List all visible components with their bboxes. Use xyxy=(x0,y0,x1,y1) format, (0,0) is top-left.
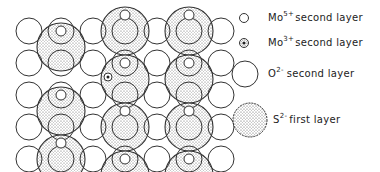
o2-ion xyxy=(80,82,106,108)
o2-ion xyxy=(208,82,234,108)
o2-ion xyxy=(16,114,42,140)
legend-item-s2: S2-first layer xyxy=(233,103,341,137)
mo5-ion xyxy=(184,106,194,116)
o2-ion xyxy=(144,82,170,108)
legend-label-mo5: Mo5+second layer xyxy=(268,10,363,23)
o2-ion xyxy=(16,18,42,44)
mo5-ion xyxy=(120,10,130,20)
o2-ion xyxy=(16,82,42,108)
legend-item-mo3: Mo3+second layer xyxy=(240,35,364,48)
lattice-grid xyxy=(16,7,234,172)
mo3-ion-core xyxy=(107,76,110,79)
legend-label-s2: S2-first layer xyxy=(273,112,341,125)
legend-item-o2: O2-second layer xyxy=(232,61,355,87)
mo5-ion xyxy=(120,58,130,68)
mo5-ion xyxy=(56,138,66,148)
o2-ion xyxy=(144,146,170,172)
mo5-ion xyxy=(120,106,130,116)
legend-item-mo5: Mo5+second layer xyxy=(240,10,364,23)
o2-ion xyxy=(16,50,42,76)
mo5-ion xyxy=(184,10,194,20)
mo5-ion xyxy=(56,26,66,36)
mo5-ion xyxy=(56,90,66,100)
s2-ion-icon xyxy=(233,103,267,137)
legend-label-o2: O2-second layer xyxy=(268,66,355,79)
legend: Mo5+second layer Mo3+second layer O2-sec… xyxy=(232,10,363,137)
legend-label-mo3: Mo3+second layer xyxy=(268,35,363,48)
o2-ion xyxy=(144,50,170,76)
mo5-ion xyxy=(120,154,130,164)
o2-ion xyxy=(80,50,106,76)
crystal-layer-diagram: Mo5+second layer Mo3+second layer O2-sec… xyxy=(0,0,380,172)
mo5-ion-icon xyxy=(240,14,249,23)
mo5-ion xyxy=(184,154,194,164)
o2-ion xyxy=(208,146,234,172)
mo5-ion xyxy=(184,58,194,68)
o2-ion-icon xyxy=(232,61,258,87)
o2-ion xyxy=(208,50,234,76)
